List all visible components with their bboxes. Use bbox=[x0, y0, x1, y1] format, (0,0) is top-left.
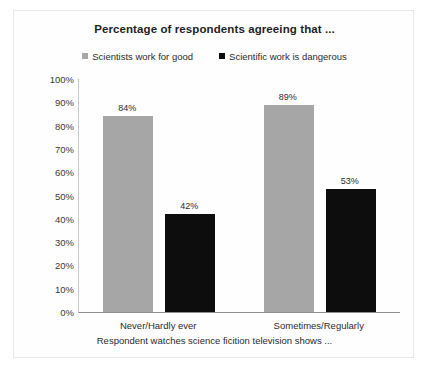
y-axis-tick-label: 50% bbox=[16, 190, 74, 201]
x-axis-category-label: Sometimes/Regularly bbox=[239, 320, 399, 331]
bar-scientific-work-is-dangerous[interactable] bbox=[165, 214, 215, 312]
bar-value-label: 53% bbox=[320, 176, 380, 186]
x-axis-category-label: Never/Hardly ever bbox=[78, 320, 238, 331]
bar-scientists-work-for-good[interactable] bbox=[103, 116, 153, 312]
plot-wrapper: 100%90%80%70%60%50%40%30%20%10%0% Respon… bbox=[14, 11, 415, 359]
y-axis-tick-label: 80% bbox=[16, 120, 74, 131]
bar-value-label: 84% bbox=[97, 103, 157, 113]
y-axis-tick-label: 100% bbox=[16, 74, 74, 85]
bar-value-label: 42% bbox=[159, 201, 219, 211]
y-axis-tick-label: 70% bbox=[16, 143, 74, 154]
y-axis-tick-label: 30% bbox=[16, 237, 74, 248]
bar-scientists-work-for-good[interactable] bbox=[264, 105, 314, 312]
y-axis-tick-label: 60% bbox=[16, 167, 74, 178]
y-axis-tick-label: 0% bbox=[16, 307, 74, 318]
y-axis-tick-label: 90% bbox=[16, 97, 74, 108]
y-axis-tick-label: 10% bbox=[16, 283, 74, 294]
bar-value-label: 89% bbox=[258, 92, 318, 102]
y-axis-tick-label: 20% bbox=[16, 260, 74, 271]
y-axis-tick-label: 40% bbox=[16, 213, 74, 224]
chart-container: Percentage of respondents agreeing that … bbox=[13, 10, 414, 358]
plot-area bbox=[78, 79, 400, 313]
x-axis-title: Respondent watches science ficition tele… bbox=[14, 335, 415, 346]
y-axis: 100%90%80%70%60%50%40%30%20%10%0% bbox=[14, 79, 74, 312]
bar-scientific-work-is-dangerous[interactable] bbox=[326, 189, 376, 312]
